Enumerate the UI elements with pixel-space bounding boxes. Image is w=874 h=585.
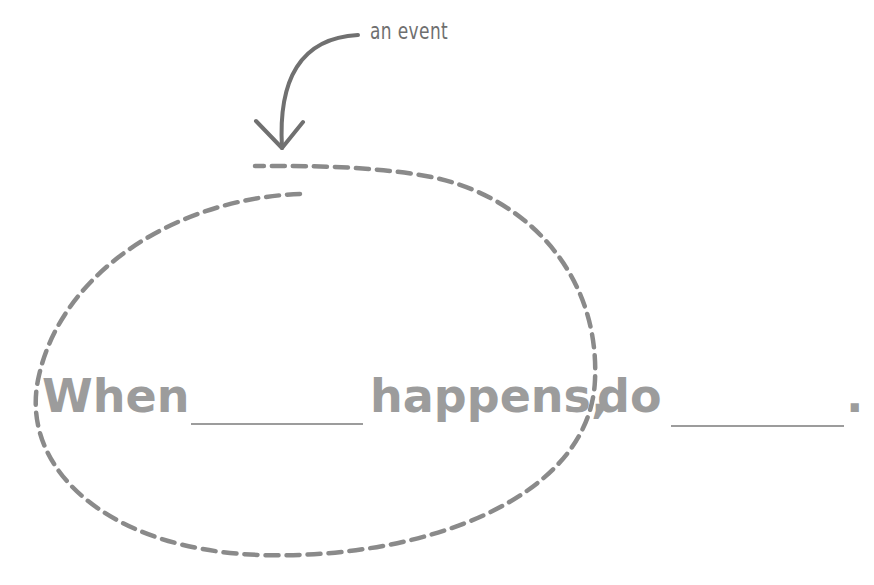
diagram-canvas — [0, 0, 874, 585]
annotation-label: an event — [370, 18, 448, 44]
sentence-word-when: When — [42, 373, 189, 419]
curved-arrow-icon — [282, 35, 358, 148]
dashed-ellipse-icon — [36, 166, 596, 555]
sentence-period: . — [846, 373, 863, 419]
sentence-word-do: do — [597, 373, 662, 419]
sentence-word-happens: happens, — [370, 373, 608, 419]
arrowhead-icon — [256, 121, 303, 148]
